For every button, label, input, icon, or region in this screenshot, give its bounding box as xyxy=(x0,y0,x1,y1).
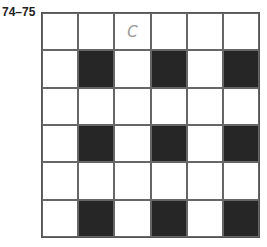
grid-cell-r3-c2 xyxy=(78,88,114,125)
grid-cell-r3-c4 xyxy=(151,88,187,125)
checker-grid: C xyxy=(41,12,260,238)
grid-cell-r4-c6 xyxy=(223,125,259,162)
grid-cell-r3-c5 xyxy=(187,88,223,125)
grid-cell-r4-c3 xyxy=(114,125,150,162)
grid-cell-r2-c3 xyxy=(114,50,150,87)
grid-cell-r5-c6 xyxy=(223,162,259,199)
grid-cell-r1-c3: C xyxy=(114,13,150,50)
grid-cell-r5-c3 xyxy=(114,162,150,199)
grid-cell-r4-c5 xyxy=(187,125,223,162)
grid-cell-r1-c2 xyxy=(78,13,114,50)
grid-cell-r5-c2 xyxy=(78,162,114,199)
grid-cell-r6-c6 xyxy=(223,200,259,237)
grid-cell-r2-c5 xyxy=(187,50,223,87)
grid-cell-r6-c4 xyxy=(151,200,187,237)
grid-cell-r2-c2 xyxy=(78,50,114,87)
grid-cell-r5-c4 xyxy=(151,162,187,199)
grid-cell-r5-c1 xyxy=(42,162,78,199)
grid-cell-r3-c3 xyxy=(114,88,150,125)
grid-cell-r2-c1 xyxy=(42,50,78,87)
grid-cell-r4-c2 xyxy=(78,125,114,162)
grid-cell-r1-c5 xyxy=(187,13,223,50)
grid-cell-r3-c1 xyxy=(42,88,78,125)
grid-cell-r6-c1 xyxy=(42,200,78,237)
figure-label: 74–75 xyxy=(2,5,35,19)
grid-cell-r6-c2 xyxy=(78,200,114,237)
grid-cell-r5-c5 xyxy=(187,162,223,199)
grid-cell-r4-c4 xyxy=(151,125,187,162)
grid-cell-r4-c1 xyxy=(42,125,78,162)
grid-cell-r6-c5 xyxy=(187,200,223,237)
grid-cell-r3-c6 xyxy=(223,88,259,125)
grid-cell-r1-c1 xyxy=(42,13,78,50)
grid-cell-r1-c6 xyxy=(223,13,259,50)
grid-cell-r2-c4 xyxy=(151,50,187,87)
grid-cell-r1-c4 xyxy=(151,13,187,50)
grid-cell-r6-c3 xyxy=(114,200,150,237)
grid-cell-r2-c6 xyxy=(223,50,259,87)
